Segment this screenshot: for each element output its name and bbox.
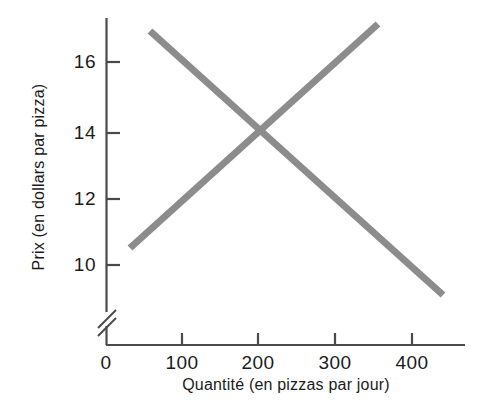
y-axis-title: Prix (en dollars par pizza)	[30, 52, 48, 302]
x-tick-label-400: 400	[389, 352, 435, 374]
y-tick-label-14: 14	[50, 122, 96, 144]
x-tick-label-200: 200	[235, 352, 281, 374]
x-tick-label-0: 0	[83, 352, 129, 374]
x-tick-label-300: 300	[312, 352, 358, 374]
y-tick-label-16: 16	[50, 51, 96, 73]
demand-curve	[150, 31, 443, 295]
y-tick-label-12: 12	[50, 188, 96, 210]
x-tick-label-100: 100	[159, 352, 205, 374]
supply-curve	[130, 24, 378, 248]
x-axis-title: Quantité (en pizzas par jour)	[106, 376, 466, 394]
chart-figure: 16 14 12 10 0 100 200 300 400 Prix (en d…	[0, 0, 492, 415]
y-tick-label-10: 10	[50, 254, 96, 276]
